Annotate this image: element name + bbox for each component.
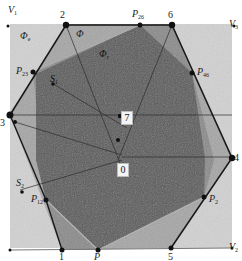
vertex-1-label: 1 <box>59 252 64 261</box>
label-S1: S1 <box>50 74 58 85</box>
vertex-5-label: 5 <box>168 252 173 261</box>
label-P12: P12 <box>31 194 43 205</box>
label-P23: P23 <box>16 66 28 77</box>
label-P26: P26 <box>132 9 144 20</box>
label-phi: Φ <box>76 29 84 40</box>
vertex-4-label: 4 <box>234 153 239 163</box>
label-V3: V3 <box>229 19 238 30</box>
label-S2: S2 <box>16 178 24 189</box>
label-phi-e: Φe <box>20 31 30 42</box>
label-P: P <box>94 252 100 261</box>
vertex-2-label: 2 <box>60 10 65 20</box>
boxed-label-7: 7 <box>121 111 133 125</box>
vertex-6-label: 6 <box>168 10 173 20</box>
label-P2: P2 <box>209 194 218 205</box>
boxed-label-0: 0 <box>117 163 129 177</box>
label-V2: V2 <box>229 242 238 253</box>
label-phi-r: Φr <box>99 49 109 60</box>
diagram-canvas <box>0 0 242 261</box>
label-P46: P46 <box>197 67 209 78</box>
label-V1: V1 <box>8 5 17 16</box>
vertex-3-label: 3 <box>0 118 5 128</box>
